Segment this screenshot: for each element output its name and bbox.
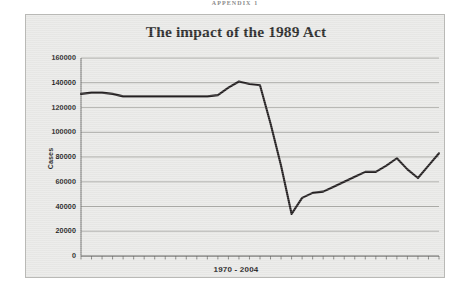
line-chart-plot [26,15,446,279]
series-line-cases [81,82,439,214]
page-header-text: APPENDIX 1 [0,0,470,7]
x-axis-ticks [81,256,439,260]
chart-panel: The impact of the 1989 Act Cases 1600001… [25,14,445,278]
x-axis-title: 1970 - 2004 [26,265,446,274]
